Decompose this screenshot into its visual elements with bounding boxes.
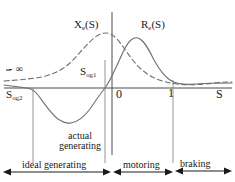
slip-characteristic-figure: Xe(S) Re(S) Sog1 Sog2 0 1 S - ∞ actual g… — [0, 0, 235, 182]
neg-infinity-label: - ∞ — [9, 64, 23, 74]
region-arrowhead-motoring-left — [113, 169, 121, 176]
curve-label-re: Re(S) — [141, 19, 165, 30]
marker-label-sog2-sub: og2 — [12, 94, 22, 101]
curve-re-solid — [4, 38, 232, 123]
region-label-braking: braking — [180, 159, 211, 169]
curve-label-xe-suffix: (S) — [85, 18, 98, 30]
curve-label-xe-main: X — [74, 18, 82, 30]
region-arrowhead-ideal-left — [3, 169, 11, 176]
region-arrowhead-braking-right — [224, 168, 232, 175]
marker-label-sog2: Sog2 — [6, 89, 22, 100]
annotation-actual-generating: actual generating — [50, 131, 110, 151]
curve-label-re-suffix: (S) — [151, 18, 164, 30]
curve-label-xe: Xe(S) — [74, 19, 98, 30]
curve-xe-dashed — [4, 33, 232, 85]
region-label-motoring: motoring — [123, 160, 160, 170]
curve-label-xe-sub: e — [82, 24, 85, 31]
marker-label-sog1-sub: og1 — [86, 71, 96, 78]
marker-label-sog1: Sog1 — [80, 66, 96, 77]
region-arrowhead-motoring-right — [165, 169, 173, 176]
x-tick-label-one: 1 — [168, 87, 174, 99]
x-axis-title: S — [216, 88, 223, 100]
x-tick-label-zero: 0 — [116, 88, 122, 100]
region-label-ideal-generating: ideal generating — [22, 160, 86, 170]
region-arrowhead-ideal-right — [103, 169, 111, 176]
annotation-actual-line2: generating — [50, 141, 110, 151]
curve-label-re-sub: e — [148, 24, 151, 31]
